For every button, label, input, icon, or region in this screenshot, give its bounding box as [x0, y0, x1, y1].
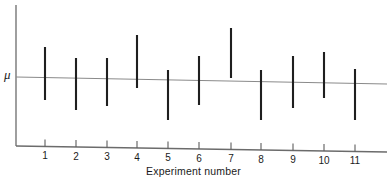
- x-tick-label-11: 11: [350, 156, 360, 166]
- confidence-interval-bars: [45, 28, 355, 120]
- x-tick-label-4: 4: [134, 153, 140, 163]
- mu-reference-line: [16, 77, 387, 84]
- x-tick-label-2: 2: [73, 152, 79, 162]
- x-tick-label-10: 10: [318, 156, 329, 166]
- x-axis-line: [16, 146, 387, 152]
- y-axis-label-mu: μ: [4, 68, 11, 81]
- x-axis-ticks: [45, 140, 355, 152]
- experiment-confidence-interval-chart: μ 1 2 3 4 5 6 7 8 9 10 11 Experiment num…: [0, 0, 387, 184]
- x-tick-label-1: 1: [42, 151, 48, 161]
- x-tick-label-5: 5: [165, 153, 171, 163]
- x-tick-label-6: 6: [196, 154, 202, 164]
- x-tick-label-3: 3: [104, 152, 110, 162]
- x-axis-title: Experiment number: [0, 166, 387, 177]
- x-tick-label-7: 7: [228, 154, 234, 164]
- x-tick-label-8: 8: [258, 155, 264, 165]
- x-tick-label-9: 9: [290, 155, 296, 165]
